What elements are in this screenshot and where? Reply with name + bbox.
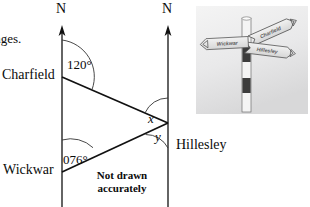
not-drawn-accurately-note: Not drawn accurately: [84, 169, 160, 196]
angle-label-x: x: [148, 112, 154, 125]
partial-cropped-text: ages.: [0, 32, 21, 45]
place-label-charfield: Charfield: [2, 68, 55, 82]
angle-label-120: 120°: [67, 58, 92, 71]
north-label-right: N: [162, 2, 172, 16]
sign-wickwar: Wickwar: [200, 36, 249, 49]
angle-label-y: y: [155, 130, 161, 143]
signpost-pole: [242, 17, 251, 112]
sign-label-wickwar: Wickwar: [217, 40, 239, 47]
signpost-photograph: Charfield Hillesley Wickwar: [196, 6, 308, 114]
north-line-left: [59, 25, 66, 207]
place-label-hillesley: Hillesley: [176, 138, 227, 152]
angle-arc-076: [62, 139, 93, 148]
bearings-question-figure: ages. N N Charfield Wickwar Hillesley 12…: [0, 0, 310, 207]
pole-band-dark-lower: [242, 78, 250, 93]
north-label-left: N: [56, 2, 66, 16]
north-line-right: [165, 25, 172, 207]
place-label-wickwar: Wickwar: [3, 163, 54, 177]
angle-label-076: 076°: [63, 153, 88, 166]
